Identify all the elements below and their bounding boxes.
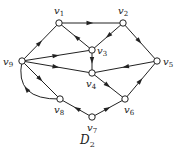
edges [21, 21, 157, 117]
node-v7 [89, 114, 95, 120]
node-v5 [154, 58, 160, 64]
label-v9: v9 [3, 56, 13, 69]
arrowhead-icon [87, 21, 94, 25]
nodes [19, 20, 160, 120]
label-v4: v4 [86, 78, 97, 91]
label-v3: v3 [97, 45, 107, 58]
arrowhead-icon [52, 54, 59, 58]
label-v5: v5 [163, 56, 173, 69]
node-v8 [57, 96, 63, 102]
arrowhead-icon [74, 107, 81, 112]
node-v6 [122, 96, 128, 102]
node-v4 [89, 70, 95, 76]
node-v3 [89, 47, 95, 53]
label-v6: v6 [124, 104, 135, 117]
node-v2 [120, 20, 126, 26]
arrowhead-icon [52, 64, 59, 68]
label-v2: v2 [118, 5, 128, 18]
label-v1: v1 [54, 5, 64, 18]
arrowhead-icon [90, 57, 94, 64]
arrowhead-icon [103, 107, 110, 112]
graph-caption: D2 [79, 133, 95, 149]
node-v9 [19, 58, 25, 64]
node-v1 [56, 20, 62, 26]
directed-graph-d2: v1v2v3v4v5v6v7v8v9 D2 [0, 0, 177, 151]
label-v8: v8 [54, 104, 64, 117]
